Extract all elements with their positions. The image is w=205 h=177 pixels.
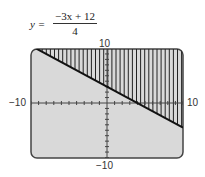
- y-min-label: −10: [96, 160, 113, 171]
- x-min-label: −10: [9, 97, 26, 108]
- graph-screen: [0, 0, 205, 177]
- y-max-label: 10: [99, 38, 110, 49]
- x-max-label: 10: [187, 97, 198, 108]
